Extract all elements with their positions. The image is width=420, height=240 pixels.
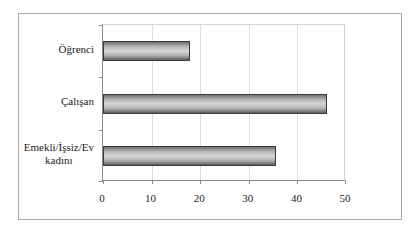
x-tick-mark: [200, 180, 201, 184]
plot-area: [102, 24, 345, 181]
category-label-line: Emekli/İşsiz/Ev: [24, 141, 94, 154]
x-tick-label: 0: [99, 192, 105, 204]
x-tick-label: 20: [194, 192, 205, 204]
category-label-line: Öğrenci: [59, 43, 94, 56]
bar-0: [103, 41, 190, 61]
y-tick-mark: [99, 130, 103, 131]
x-tick-mark: [103, 180, 104, 184]
y-tick-mark: [99, 77, 103, 78]
category-label: Emekli/İşsiz/Evkadını: [24, 141, 94, 167]
x-tick-mark: [249, 180, 250, 184]
x-tick-mark: [152, 180, 153, 184]
category-label-line: Çalışan: [61, 95, 94, 108]
y-tick-mark: [99, 25, 103, 26]
x-tick-label: 50: [340, 192, 351, 204]
bar-1: [103, 94, 327, 114]
x-tick-label: 40: [291, 192, 302, 204]
x-tick-label: 10: [145, 192, 156, 204]
category-label: Çalışan: [61, 95, 94, 108]
x-tick-mark: [345, 180, 346, 184]
category-label: Öğrenci: [59, 43, 94, 56]
x-tick-label: 30: [242, 192, 253, 204]
x-tick-mark: [297, 180, 298, 184]
y-tick-mark: [99, 181, 103, 182]
category-label-line: kadını: [24, 154, 94, 167]
bar-2: [103, 146, 276, 166]
